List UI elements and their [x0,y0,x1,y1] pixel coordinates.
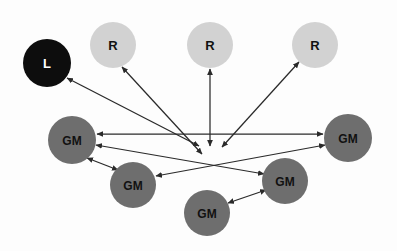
node-circle-l[interactable] [23,39,71,87]
node-circle-r3[interactable] [292,22,338,68]
node-circle-gm3[interactable] [184,190,230,236]
node-circle-gm1[interactable] [48,116,96,164]
node-gm5[interactable]: GM [324,114,372,162]
node-l[interactable]: L [23,39,71,87]
node-gm3[interactable]: GM [184,190,230,236]
diagram-svg: LRRRGMGMGMGMGM [0,0,397,251]
node-gm1[interactable]: GM [48,116,96,164]
node-r2[interactable]: R [187,22,233,68]
node-gm2[interactable]: GM [110,162,156,208]
node-gm4[interactable]: GM [262,158,308,204]
node-r3[interactable]: R [292,22,338,68]
node-circle-gm2[interactable] [110,162,156,208]
node-r1[interactable]: R [90,22,136,68]
node-circle-gm5[interactable] [324,114,372,162]
edge-gm3-to-gm4 [228,190,266,203]
nodes-layer: LRRRGMGMGMGMGM [23,22,372,236]
node-circle-r2[interactable] [187,22,233,68]
edge-r1-to-hub [122,67,202,154]
node-circle-gm4[interactable] [262,158,308,204]
diagram-canvas: LRRRGMGMGMGMGM [0,0,397,251]
edge-gm1-to-gm2 [87,158,118,170]
node-circle-r1[interactable] [90,22,136,68]
